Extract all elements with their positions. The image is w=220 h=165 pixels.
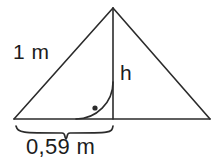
geometry-figure: 1 m h 0,59 m xyxy=(0,0,220,165)
side-length-label: 1 m xyxy=(13,41,50,62)
right-angle-arc-icon xyxy=(76,82,113,119)
height-label: h xyxy=(120,62,132,83)
triangle-left-side xyxy=(14,8,113,119)
base-length-label: 0,59 m xyxy=(26,136,95,158)
right-angle-dot-icon xyxy=(92,105,97,110)
